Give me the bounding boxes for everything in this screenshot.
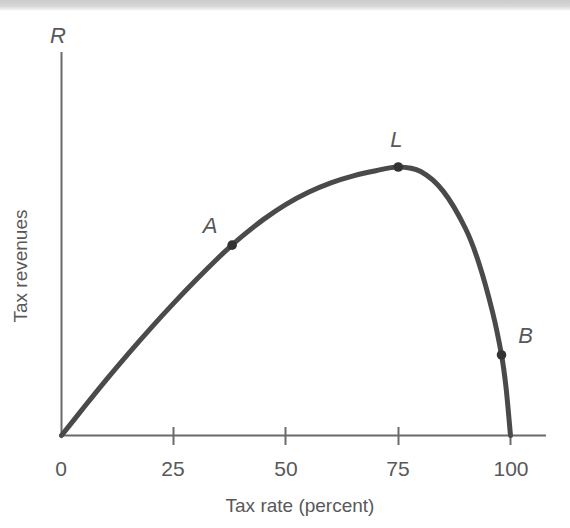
x-tick-labels: 0 25 50 75 100 (55, 457, 528, 480)
x-tick-label-50: 50 (274, 457, 297, 480)
x-tick-label-75: 75 (386, 457, 409, 480)
laffer-curve-line (62, 167, 511, 436)
data-point-a-label: A (201, 213, 218, 238)
x-tick-label-100: 100 (493, 457, 528, 480)
x-tick-label-25: 25 (161, 457, 184, 480)
x-tick-label-0: 0 (55, 457, 67, 480)
y-axis-symbol-R: R (50, 23, 66, 48)
data-point-a-marker (227, 240, 237, 250)
laffer-curve-plot: 0 25 50 75 100 Tax rate (percent) Tax re… (0, 0, 570, 528)
x-axis-title: Tax rate (percent) (226, 495, 375, 516)
y-axis-title: Tax revenues (10, 209, 31, 322)
figure-root: 0 25 50 75 100 Tax rate (percent) Tax re… (0, 0, 570, 528)
data-point-l-label: L (390, 127, 402, 152)
data-point-b-marker (497, 350, 507, 360)
annotation-points: A L B (201, 127, 533, 360)
data-point-l-marker (393, 162, 403, 172)
data-point-b-label: B (518, 323, 533, 348)
